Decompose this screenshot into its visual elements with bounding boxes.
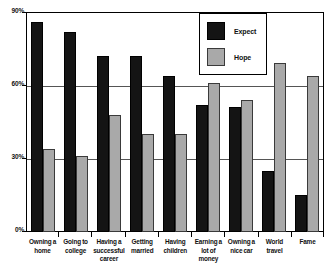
legend-swatch-expect-icon bbox=[207, 22, 225, 40]
bar-hope bbox=[208, 83, 220, 232]
x-axis-label: Fame bbox=[291, 238, 324, 264]
bar-group bbox=[291, 12, 324, 232]
bar-expect bbox=[229, 107, 241, 232]
bar-group bbox=[158, 12, 191, 232]
bar-hope bbox=[175, 134, 187, 232]
bar-group bbox=[125, 12, 158, 232]
bar-hope bbox=[307, 76, 319, 232]
x-axis-separator bbox=[58, 232, 91, 237]
y-tick-label-0: 0% bbox=[0, 227, 24, 234]
x-axis-label: Having a successful career bbox=[92, 238, 126, 264]
bar-expect bbox=[97, 56, 109, 232]
x-axis-separator bbox=[291, 232, 324, 237]
bar-group bbox=[92, 12, 125, 232]
x-axis-labels: Owning a homeGoing to collegeHaving a su… bbox=[26, 238, 324, 264]
x-axis-separator bbox=[26, 232, 58, 237]
x-axis-label: Going to college bbox=[59, 238, 92, 264]
bar-expect bbox=[262, 171, 274, 232]
bar-expect bbox=[196, 105, 208, 232]
x-axis-separator bbox=[125, 232, 158, 237]
legend-swatch-hope-icon bbox=[207, 48, 225, 66]
x-axis-label: Getting married bbox=[126, 238, 159, 264]
y-tick-label-30: 30% bbox=[0, 154, 24, 161]
chart-legend: Expect Hope bbox=[199, 13, 267, 75]
bar-hope bbox=[109, 115, 121, 232]
x-axis-label: World travel bbox=[258, 238, 291, 264]
x-axis-separator bbox=[224, 232, 257, 237]
legend-label-hope: Hope bbox=[234, 54, 251, 61]
bar-expect bbox=[130, 56, 142, 232]
legend-item-expect: Expect bbox=[207, 22, 256, 40]
x-axis-label: Earning a lot of money bbox=[192, 238, 225, 264]
x-axis-label: Owning a home bbox=[26, 238, 59, 264]
legend-label-expect: Expect bbox=[234, 28, 256, 35]
bar-hope bbox=[241, 100, 253, 232]
bar-expect bbox=[163, 76, 175, 232]
bar-expect bbox=[31, 22, 43, 232]
bar-group bbox=[59, 12, 92, 232]
y-tick-label-90: 90% bbox=[0, 8, 24, 15]
bar-hope bbox=[142, 134, 154, 232]
bar-hope bbox=[43, 149, 55, 232]
bar-hope bbox=[274, 63, 286, 232]
bar-chart: 90% 60% 30% 0% Owning a homeGoing to col… bbox=[0, 0, 332, 280]
y-tick-label-60: 60% bbox=[0, 81, 24, 88]
x-axis-separator bbox=[91, 232, 124, 237]
bar-expect bbox=[295, 195, 307, 232]
bar-group bbox=[26, 12, 59, 232]
x-axis-label: Having children bbox=[159, 238, 192, 264]
x-axis-label: Owning a nice car bbox=[225, 238, 258, 264]
bar-hope bbox=[76, 156, 88, 232]
legend-item-hope: Hope bbox=[207, 48, 251, 66]
x-axis-separator bbox=[158, 232, 191, 237]
bars-layer bbox=[26, 12, 324, 232]
bar-expect bbox=[64, 32, 76, 232]
x-axis-separator bbox=[191, 232, 224, 237]
x-axis-separator bbox=[258, 232, 291, 237]
